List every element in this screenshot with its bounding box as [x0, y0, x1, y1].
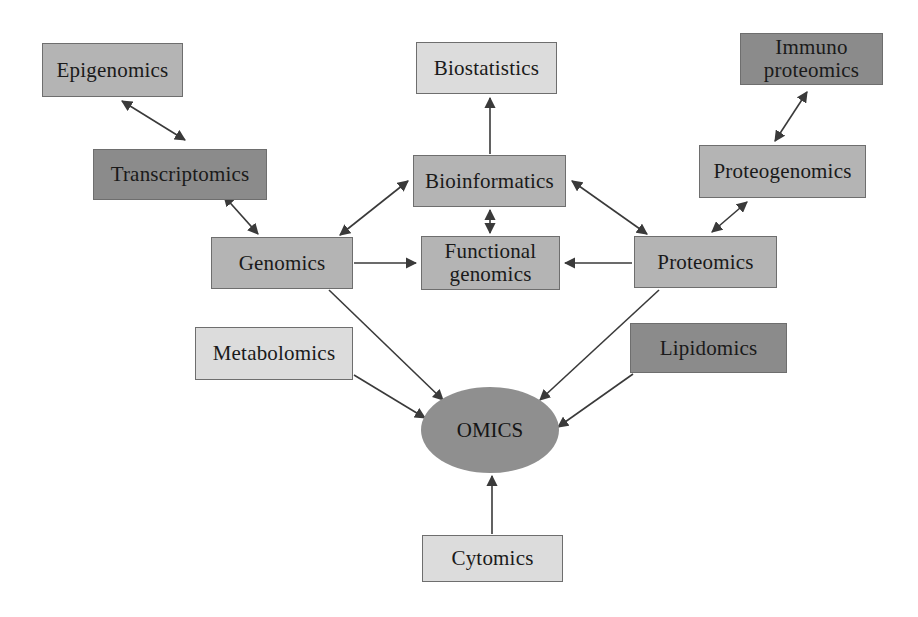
node-lipidomics-label: Lipidomics	[660, 337, 758, 360]
node-metabolomics[interactable]: Metabolomics	[195, 327, 353, 380]
node-genomics-label: Genomics	[239, 252, 326, 275]
edge-lipidomics-omics	[558, 374, 633, 427]
node-biostatistics[interactable]: Biostatistics	[416, 42, 557, 94]
edge-metabolomics-omics	[354, 375, 425, 418]
node-immuno-proteomics-label: Immuno proteomics	[764, 36, 859, 81]
node-omics-hub-label: OMICS	[457, 418, 524, 443]
edge-proteogenomics-immuno	[775, 92, 807, 141]
edge-genomics-bioinformatics	[340, 181, 408, 235]
node-epigenomics[interactable]: Epigenomics	[42, 43, 183, 97]
node-proteogenomics-label: Proteogenomics	[713, 160, 851, 183]
edge-proteomics-bioinformatics	[572, 181, 647, 234]
node-biostatistics-label: Biostatistics	[434, 57, 539, 80]
edge-transcriptomics-genomics	[224, 196, 258, 234]
node-proteomics-label: Proteomics	[657, 251, 754, 274]
node-metabolomics-label: Metabolomics	[213, 342, 336, 365]
node-bioinformatics[interactable]: Bioinformatics	[413, 155, 566, 207]
node-omics-hub[interactable]: OMICS	[421, 387, 559, 473]
node-proteomics[interactable]: Proteomics	[634, 236, 777, 288]
node-proteogenomics[interactable]: Proteogenomics	[699, 145, 866, 198]
node-functional-genomics[interactable]: Functional genomics	[421, 236, 560, 290]
node-genomics[interactable]: Genomics	[211, 237, 353, 289]
edge-proteomics-proteogenomics	[712, 202, 747, 232]
node-transcriptomics-label: Transcriptomics	[111, 163, 250, 186]
node-epigenomics-label: Epigenomics	[57, 59, 169, 82]
edge-epigenomics-transcriptomics	[122, 101, 185, 140]
node-functional-genomics-label: Functional genomics	[445, 240, 537, 285]
diagram-canvas: EpigenomicsTranscriptomicsGenomicsMetabo…	[0, 0, 918, 617]
node-cytomics-label: Cytomics	[451, 547, 533, 570]
node-bioinformatics-label: Bioinformatics	[425, 170, 554, 193]
node-transcriptomics[interactable]: Transcriptomics	[93, 149, 267, 200]
node-lipidomics[interactable]: Lipidomics	[630, 323, 787, 373]
node-immuno-proteomics[interactable]: Immuno proteomics	[740, 33, 883, 85]
node-cytomics[interactable]: Cytomics	[422, 535, 563, 582]
